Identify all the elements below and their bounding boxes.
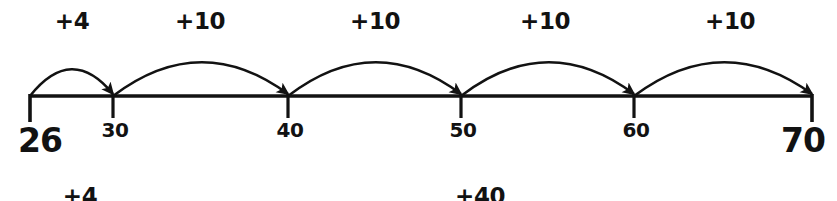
total-label-2: +40 <box>455 185 505 201</box>
jump-arc-3 <box>288 62 461 96</box>
tick-label-40: 40 <box>277 120 304 140</box>
jump-arc-group <box>30 62 812 96</box>
jump-label-1: +4 <box>55 10 89 33</box>
tick-label-50: 50 <box>450 120 477 140</box>
tick-label-30: 30 <box>102 120 129 140</box>
total-label-1: +4 <box>63 185 97 201</box>
tick-label-70: 70 <box>781 124 825 157</box>
jump-label-3: +10 <box>350 10 400 33</box>
number-line-diagram: +4+10+10+10+10 263040506070 +4+40 <box>0 0 837 201</box>
jump-arc-2 <box>113 62 288 96</box>
tick-group <box>30 94 812 122</box>
tick-label-26: 26 <box>18 124 62 157</box>
tick-label-60: 60 <box>623 120 650 140</box>
jump-label-5: +10 <box>705 10 755 33</box>
jump-label-4: +10 <box>520 10 570 33</box>
jump-arc-4 <box>461 62 634 96</box>
jump-arc-5 <box>634 62 812 96</box>
jump-label-2: +10 <box>175 10 225 33</box>
jump-arc-1 <box>30 69 113 96</box>
